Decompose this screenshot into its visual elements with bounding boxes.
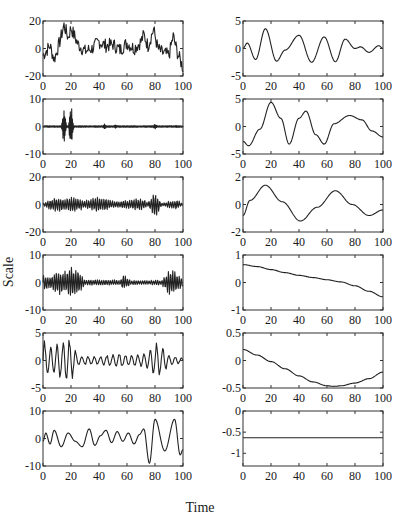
- y-tick-label: 0: [235, 120, 241, 134]
- x-tick-label: 40: [293, 391, 305, 405]
- x-tick-label: 100: [174, 235, 192, 249]
- x-tick-label: 80: [349, 313, 361, 327]
- x-tick-label: 40: [293, 79, 305, 93]
- plot-frame: [43, 333, 183, 388]
- y-tick-label: 0: [235, 354, 241, 368]
- x-tick-label: 20: [65, 79, 77, 93]
- x-tick-label: 60: [321, 157, 333, 171]
- x-tick-label: 20: [65, 469, 77, 483]
- plot-frame: [243, 99, 383, 154]
- x-tick-label: 60: [321, 235, 333, 249]
- y-tick-label: 0.5: [226, 326, 241, 340]
- panel-L5: -505020406080100: [31, 326, 192, 405]
- x-tick-label: 100: [174, 157, 192, 171]
- x-tick-label: 0: [240, 157, 246, 171]
- x-tick-label: 20: [265, 313, 277, 327]
- y-tick-label: 0: [35, 120, 41, 134]
- x-tick-label: 80: [149, 79, 161, 93]
- x-tick-label: 60: [121, 469, 133, 483]
- y-tick-label: 5: [235, 92, 241, 106]
- panel-L3: -20020020406080100: [25, 170, 192, 249]
- x-tick-label: 100: [374, 469, 392, 483]
- y-tick-label: 5: [235, 14, 241, 28]
- y-tick-label: 0: [35, 276, 41, 290]
- x-tick-label: 20: [65, 157, 77, 171]
- x-tick-label: 0: [40, 469, 46, 483]
- panel-R6: -1-0.50020406080100: [222, 404, 392, 483]
- x-tick-label: 80: [149, 469, 161, 483]
- y-tick-label: -10: [25, 147, 41, 161]
- y-tick-label: -20: [25, 225, 41, 239]
- x-tick-label: 100: [174, 469, 192, 483]
- x-tick-label: 40: [93, 313, 105, 327]
- x-tick-label: 60: [321, 79, 333, 93]
- x-tick-label: 60: [121, 79, 133, 93]
- panel-L1: -20020020406080100: [25, 14, 192, 93]
- x-tick-label: 60: [121, 313, 133, 327]
- x-tick-label: 20: [65, 235, 77, 249]
- plot-frame: [243, 333, 383, 388]
- x-tick-label: 20: [265, 469, 277, 483]
- series-line: [43, 340, 183, 378]
- x-tick-label: 0: [40, 79, 46, 93]
- panel-L4: -10010020406080100: [25, 248, 192, 327]
- y-tick-label: -10: [25, 459, 41, 473]
- y-tick-label: 0: [235, 198, 241, 212]
- plot-frame: [243, 411, 383, 466]
- wavelet-decomposition-figure: -20020020406080100-505020406080100-10010…: [0, 0, 405, 525]
- panel-R2: -505020406080100: [231, 92, 392, 171]
- panel-R5: -0.500.5020406080100: [222, 326, 392, 405]
- y-tick-label: 0: [35, 198, 41, 212]
- y-tick-label: 10: [29, 404, 41, 418]
- series-line: [43, 23, 183, 72]
- x-tick-label: 0: [40, 235, 46, 249]
- x-tick-label: 0: [240, 391, 246, 405]
- y-axis-title: Scale: [1, 257, 16, 287]
- y-tick-label: -1: [231, 446, 241, 460]
- x-tick-label: 80: [349, 235, 361, 249]
- x-tick-label: 80: [349, 391, 361, 405]
- x-tick-label: 40: [293, 157, 305, 171]
- x-tick-label: 100: [374, 391, 392, 405]
- y-tick-label: 0: [35, 432, 41, 446]
- y-tick-label: -20: [25, 69, 41, 83]
- x-tick-label: 60: [321, 313, 333, 327]
- y-tick-label: 0: [235, 404, 241, 418]
- x-tick-label: 100: [174, 79, 192, 93]
- x-tick-label: 80: [349, 157, 361, 171]
- y-tick-label: 1: [235, 248, 241, 262]
- x-tick-label: 0: [240, 79, 246, 93]
- y-tick-label: -10: [25, 303, 41, 317]
- x-tick-label: 40: [93, 391, 105, 405]
- y-tick-label: 20: [29, 170, 41, 184]
- x-tick-label: 100: [374, 235, 392, 249]
- x-tick-label: 80: [149, 235, 161, 249]
- x-tick-label: 0: [40, 391, 46, 405]
- series-line: [43, 195, 183, 215]
- x-tick-label: 80: [149, 391, 161, 405]
- x-tick-label: 80: [349, 79, 361, 93]
- x-tick-label: 40: [293, 313, 305, 327]
- x-tick-label: 40: [93, 235, 105, 249]
- x-tick-label: 20: [265, 391, 277, 405]
- x-tick-label: 20: [65, 391, 77, 405]
- plot-frame: [43, 411, 183, 466]
- series-line: [243, 29, 383, 63]
- x-tick-label: 0: [240, 313, 246, 327]
- plot-frame: [243, 255, 383, 310]
- x-tick-label: 100: [174, 313, 192, 327]
- series-line: [243, 185, 383, 221]
- x-tick-label: 60: [121, 157, 133, 171]
- x-tick-label: 20: [265, 79, 277, 93]
- x-tick-label: 100: [374, 313, 392, 327]
- x-tick-label: 20: [265, 235, 277, 249]
- x-tick-label: 0: [40, 313, 46, 327]
- x-tick-label: 100: [374, 79, 392, 93]
- x-tick-label: 80: [149, 157, 161, 171]
- x-tick-label: 40: [293, 469, 305, 483]
- y-tick-label: 0: [35, 354, 41, 368]
- y-tick-label: -0.5: [222, 425, 241, 439]
- x-tick-label: 40: [93, 79, 105, 93]
- y-tick-label: 20: [29, 14, 41, 28]
- x-tick-label: 0: [240, 469, 246, 483]
